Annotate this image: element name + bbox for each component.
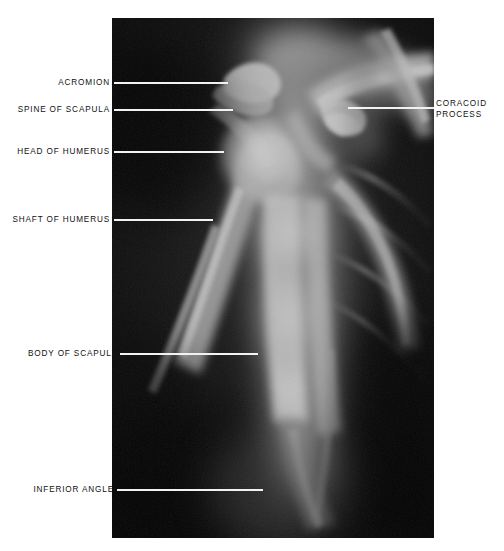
leader-line-shaft-of-humerus — [114, 219, 213, 221]
label-spine-of-scapula: SPINE OF SCAPULA — [18, 105, 110, 116]
label-coracoid-process-line1: CORACOID — [436, 99, 487, 110]
label-acromion: ACROMION — [58, 78, 110, 89]
leader-line-acromion — [114, 82, 228, 84]
leader-line-head-of-humerus — [114, 151, 224, 153]
label-inferior-angle: INFERIOR ANGLE — [33, 485, 114, 496]
radiograph-panel — [112, 18, 434, 538]
leader-line-body-of-scapula — [120, 353, 258, 355]
annotated-radiograph-figure: ACROMION SPINE OF SCAPULA HEAD OF HUMERU… — [0, 0, 504, 551]
leader-line-inferior-angle — [117, 489, 263, 491]
leader-line-spine-of-scapula — [114, 109, 233, 111]
label-shaft-of-humerus: SHAFT OF HUMERUS — [12, 215, 110, 226]
leader-line-coracoid-process — [348, 107, 434, 109]
radiograph-image — [112, 18, 434, 538]
label-coracoid-process-line2: PROCESS — [436, 110, 487, 121]
label-head-of-humerus: HEAD OF HUMERUS — [17, 147, 110, 158]
label-coracoid-process: CORACOID PROCESS — [436, 99, 487, 120]
label-body-of-scapula: BODY OF SCAPULA — [28, 349, 118, 360]
